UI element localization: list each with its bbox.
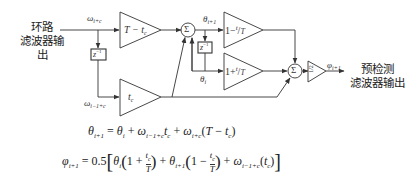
theta-current-label: θi [200, 74, 206, 85]
output-label-line2: 滤波器输出 [346, 76, 408, 90]
input-label: 环路 滤波器输出 [20, 20, 64, 62]
gain-minus-label: 1−t/T [225, 24, 245, 36]
output-label-line1: 预检测 [346, 62, 408, 76]
phi-output-label: φi+1 [327, 60, 341, 71]
input-label-line1: 环路 [20, 20, 64, 34]
gain-top-label: T − tc [124, 24, 147, 36]
omega-in-label: ωi+c [87, 13, 102, 24]
bottom-to-sum2 [277, 78, 290, 97]
equation-theta: θi+1 = θi + ωi−1+ctc + ωi+c(T − tc) θ_{i… [88, 124, 235, 140]
delay1-to-bottom-gain [98, 60, 119, 97]
output-label: 预检测 滤波器输出 [346, 62, 408, 90]
sum1-label: Σ [184, 24, 189, 34]
gain-bottom-triangle [120, 79, 161, 116]
theta-next-label: θi+1 [203, 14, 216, 25]
gain-half-label: 1/2 [308, 65, 314, 73]
delay1-label: z−1 [93, 49, 101, 59]
gain-bottom-label: tc [128, 91, 133, 103]
bottom-to-sum1 [172, 38, 185, 98]
sum2-label: Σ [291, 65, 296, 75]
minus-gain-to-sum2 [263, 30, 295, 63]
delay2-label: z−1 [200, 42, 208, 52]
input-label-line2: 滤波器输出 [20, 34, 64, 62]
equation-phi: φi+1 = 0.5[θi(1 + tcT) + θi+1(1 − tcT) +… [62, 150, 281, 174]
gain-plus-label: 1+t/T [225, 65, 245, 77]
omega-delayed-label: ωi−1+c [84, 98, 106, 109]
